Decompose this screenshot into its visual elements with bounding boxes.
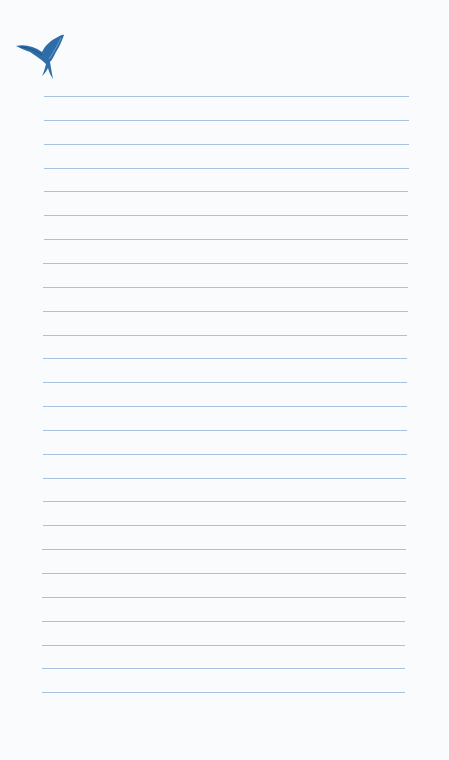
lined-paper bbox=[0, 0, 449, 760]
ruled-line bbox=[44, 168, 409, 169]
ruled-line bbox=[44, 120, 409, 121]
ruled-line bbox=[43, 406, 407, 407]
ruled-line bbox=[42, 549, 405, 550]
ruled-line bbox=[43, 382, 407, 383]
ruled-line bbox=[42, 668, 405, 669]
ruled-line bbox=[42, 692, 405, 693]
ruled-line bbox=[43, 454, 407, 455]
ruled-line bbox=[43, 335, 407, 336]
ruled-line bbox=[42, 621, 405, 622]
ruled-line bbox=[43, 525, 407, 526]
ruled-line bbox=[44, 215, 409, 216]
ruled-line bbox=[42, 597, 405, 598]
ruled-line bbox=[43, 501, 407, 502]
ruled-line bbox=[44, 144, 409, 145]
ruled-line bbox=[43, 358, 407, 359]
ruled-line bbox=[43, 287, 407, 288]
bird-icon bbox=[14, 32, 68, 82]
ruled-line bbox=[43, 263, 407, 264]
ruled-line bbox=[42, 645, 405, 646]
ruled-line bbox=[42, 573, 405, 574]
ruled-line bbox=[43, 430, 407, 431]
ruled-line bbox=[44, 191, 409, 192]
ruled-line bbox=[44, 96, 409, 97]
ruled-line bbox=[44, 239, 409, 240]
ruled-line bbox=[43, 311, 407, 312]
ruled-line bbox=[43, 478, 407, 479]
